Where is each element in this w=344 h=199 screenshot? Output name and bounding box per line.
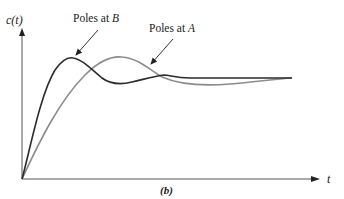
y-axis-arrow-icon (19, 28, 25, 36)
arrow-poles-at-a (151, 39, 173, 64)
annotation-b-prefix: Poles at (73, 12, 112, 24)
figure-caption: (b) (160, 184, 173, 197)
arrow-poles-at-b (76, 30, 98, 55)
step-response-figure: c(t) t Poles at B Poles at A (b) (0, 0, 344, 199)
y-axis-label: c(t) (6, 13, 23, 27)
annotation-a-prefix: Poles at (149, 22, 188, 34)
curve-poles-at-a (22, 57, 292, 179)
x-axis-arrow-icon (311, 176, 320, 182)
curve-poles-at-b (22, 58, 292, 179)
annotation-poles-at-a: Poles at A (149, 22, 196, 34)
x-axis-label: t (327, 172, 331, 186)
annotation-a-var: A (187, 22, 196, 34)
annotation-b-var: B (112, 12, 119, 24)
annotation-poles-at-b: Poles at B (73, 12, 119, 24)
